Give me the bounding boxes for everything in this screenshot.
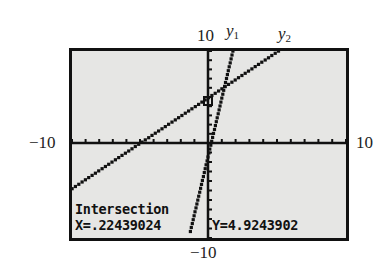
y2-point xyxy=(144,138,147,141)
readout-title: Intersection xyxy=(75,203,169,217)
ymin-label: −10 xyxy=(190,244,217,261)
ymax-label: 10 xyxy=(197,27,214,44)
y1-point xyxy=(210,140,213,143)
y2-point xyxy=(264,58,267,61)
y2-point xyxy=(197,103,200,106)
y2-point xyxy=(101,167,104,170)
y1-point xyxy=(200,183,203,186)
y2-point xyxy=(74,185,77,188)
y1-point xyxy=(224,81,227,84)
y1-point xyxy=(196,199,199,202)
y2-point xyxy=(154,132,157,135)
y2-point xyxy=(270,54,273,57)
y2-point xyxy=(240,74,243,77)
y2-point xyxy=(267,56,270,59)
y2-label: y2 xyxy=(278,25,291,44)
y2-point xyxy=(180,114,183,117)
y2-point xyxy=(254,65,257,68)
y1-point xyxy=(229,61,232,64)
y1-point xyxy=(201,179,204,182)
y2-point xyxy=(91,174,94,177)
y1-point xyxy=(220,97,223,100)
y1-point xyxy=(191,222,194,225)
y1-point xyxy=(226,73,229,76)
y2-point xyxy=(130,147,133,150)
y1-point xyxy=(216,116,219,119)
y2-point xyxy=(227,83,230,86)
y2-point xyxy=(84,178,87,181)
y1-point xyxy=(217,112,220,115)
y2-point xyxy=(257,63,260,66)
y2-point xyxy=(124,152,127,155)
y2-point xyxy=(127,149,130,152)
y1-point xyxy=(195,202,198,205)
y2-point xyxy=(214,92,217,95)
y2-point xyxy=(97,169,100,172)
y2-point xyxy=(187,109,190,112)
y1-point xyxy=(225,77,228,80)
y2-point xyxy=(244,72,247,75)
y1-point xyxy=(230,53,233,56)
y2-point xyxy=(117,156,120,159)
y2-point xyxy=(274,52,277,55)
y2-point xyxy=(164,125,167,128)
y2-point xyxy=(120,154,123,157)
y1-point xyxy=(206,159,209,162)
calculator-screen: Intersection X=.22439024 Y=4.9243902 xyxy=(69,48,349,241)
y1-point xyxy=(227,69,230,72)
y1-point xyxy=(199,187,202,190)
y2-point xyxy=(77,183,80,186)
y2-point xyxy=(224,85,227,88)
y2-point xyxy=(104,165,107,168)
y1-point xyxy=(202,175,205,178)
y2-point xyxy=(87,176,90,179)
y1-point xyxy=(214,124,217,127)
y1-label: y1 xyxy=(226,22,239,41)
y1-point xyxy=(198,191,201,194)
y2-point xyxy=(260,61,263,64)
xmax-label: 10 xyxy=(356,134,373,151)
y2-point xyxy=(160,127,163,130)
y1-point xyxy=(215,120,218,123)
y1-point xyxy=(204,167,207,170)
y1-point xyxy=(209,144,212,147)
y2-point xyxy=(114,158,117,161)
xmin-label: −10 xyxy=(29,134,56,151)
y1-point xyxy=(212,132,215,135)
y2-point xyxy=(140,141,143,144)
y2-point xyxy=(234,78,237,81)
y2-point xyxy=(217,89,220,92)
y1-point xyxy=(208,148,211,151)
y2-point xyxy=(237,76,240,79)
y2-point xyxy=(94,172,97,175)
y1-point xyxy=(218,104,221,107)
y1-point xyxy=(206,155,209,158)
y2-point xyxy=(190,107,193,110)
y2-point xyxy=(147,136,150,139)
y1-point xyxy=(189,230,192,233)
y2-point xyxy=(247,70,250,73)
y1-point xyxy=(194,206,197,209)
y2-point xyxy=(174,118,177,121)
y2-point xyxy=(194,105,197,108)
y1-point xyxy=(231,51,234,53)
y2-point xyxy=(134,145,137,148)
y2-point xyxy=(220,87,223,90)
y2-point xyxy=(107,163,110,166)
y1-point xyxy=(190,226,193,229)
y1-point xyxy=(218,108,221,111)
y2-point xyxy=(170,121,173,124)
y2-point xyxy=(150,134,153,137)
y1-point xyxy=(221,93,224,96)
y1-point xyxy=(230,57,233,60)
y1-point xyxy=(219,101,222,104)
y1-point xyxy=(197,195,200,198)
y1-point xyxy=(228,65,231,68)
y1-point xyxy=(211,136,214,139)
y1-point xyxy=(193,210,196,213)
y2-point xyxy=(184,112,187,115)
y2-point xyxy=(177,116,180,119)
y2-point xyxy=(72,187,74,190)
y2-point xyxy=(230,81,233,84)
y2-point xyxy=(137,143,140,146)
